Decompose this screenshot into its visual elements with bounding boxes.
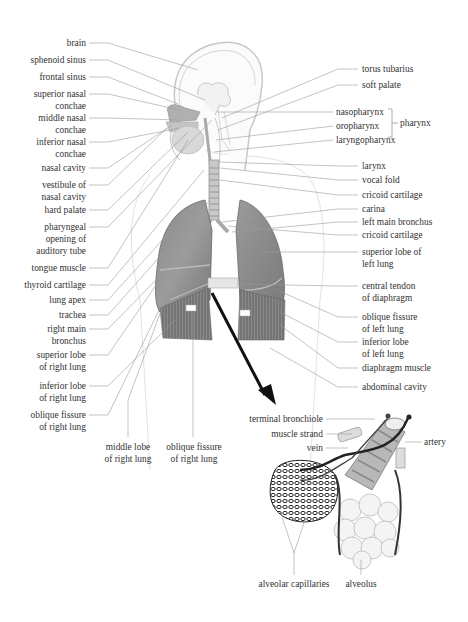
label-alveolar-capillaries: alveolar capillaries — [244, 578, 344, 590]
label-central-tendon: central tendonof diaphragm — [362, 280, 415, 304]
label-middle-lobe-right: middle lobeof right lung — [98, 441, 158, 465]
label-middle-nasal-conchae: middle nasalconchae — [38, 112, 86, 136]
label-soft-palate: soft palate — [362, 79, 401, 91]
label-thyroid-cartilage: thyroid cartilage — [24, 279, 86, 291]
label-oblique-fissure-right-bottom: oblique fissureof right lung — [160, 441, 228, 465]
label-terminal-bronchiole: terminal bronchiole — [249, 413, 323, 425]
label-diaphragm-muscle: diaphragm muscle — [362, 362, 431, 374]
label-right-main-bronchus: right mainbronchus — [47, 323, 86, 347]
label-muscle-strand: muscle strand — [271, 428, 323, 440]
label-laryngopharynx: laryngopharynx — [336, 134, 395, 146]
label-vein: vein — [307, 442, 323, 454]
label-lung-apex: lung apex — [49, 294, 86, 306]
label-torus-tubarius: torus tubarius — [362, 63, 413, 75]
label-vestibule-of-nasal-cavity: vestibule ofnasal cavity — [41, 179, 86, 203]
label-superior-lobe-left: superior lobe ofleft lung — [362, 246, 421, 270]
respiratory-diagram: brain sphenoid sinus frontal sinus super… — [0, 0, 468, 622]
label-oblique-fissure-left: oblique fissureof left lung — [362, 311, 417, 335]
label-frontal-sinus: frontal sinus — [39, 71, 86, 83]
label-inferior-nasal-conchae: inferior nasalconchae — [36, 136, 86, 160]
label-nasal-cavity: nasal cavity — [41, 162, 86, 174]
label-pharyngeal-opening: pharyngealopening ofauditory tube — [36, 221, 86, 257]
label-trachea: trachea — [59, 309, 86, 321]
label-left-main-bronchus: left main bronchus — [362, 216, 432, 228]
label-larynx: larynx — [362, 160, 386, 172]
label-nasopharynx: nasopharynx — [336, 106, 384, 118]
label-artery: artery — [424, 436, 446, 448]
label-abdominal-cavity: abdominal cavity — [362, 381, 427, 393]
label-oblique-fissure-right: oblique fissureof right lung — [31, 409, 86, 433]
label-tongue-muscle: tongue muscle — [32, 262, 86, 274]
pharynx-bracket — [388, 109, 398, 137]
label-cricoid-cartilage-2: cricoid cartilage — [362, 229, 423, 241]
label-inferior-lobe-left: inferior lobeof left lung — [362, 336, 409, 360]
label-carina: carina — [362, 203, 385, 215]
label-hard-palate: hard palate — [45, 204, 86, 216]
label-cricoid-cartilage: cricoid cartilage — [362, 189, 423, 201]
label-brain: brain — [67, 37, 86, 49]
label-pharynx: pharynx — [400, 117, 431, 129]
label-vocal-fold: vocal fold — [362, 174, 400, 186]
label-alveolus: alveolus — [331, 578, 391, 590]
head — [166, 42, 262, 180]
label-superior-lobe-right: superior lobeof right lung — [37, 349, 86, 373]
label-superior-nasal-conchae: superior nasalconchae — [34, 88, 86, 112]
label-sphenoid-sinus: sphenoid sinus — [31, 54, 86, 66]
label-oropharynx: oropharynx — [336, 120, 379, 132]
label-inferior-lobe-right: inferior lobeof right lung — [39, 380, 86, 404]
